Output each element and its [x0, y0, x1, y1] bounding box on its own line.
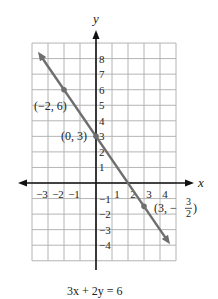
equation-caption: 3x + 2y = 6 [67, 284, 123, 298]
y-tick-label: 4 [99, 115, 105, 127]
y-tick-label: 1 [99, 161, 105, 173]
y-tick-label: 5 [99, 99, 105, 111]
plot-point [61, 87, 67, 93]
y-axis-up-arrow-icon [93, 30, 100, 39]
point-label: (−2, 6) [34, 99, 67, 113]
svg-text:3: 3 [186, 196, 191, 207]
x-axis-left-arrow-icon [18, 180, 27, 187]
x-tick-label: 4 [162, 188, 168, 200]
y-tick-label: 6 [99, 84, 105, 96]
x-axis-label: x [197, 175, 204, 190]
point-label: (0, 3) [61, 129, 87, 143]
plot-point [141, 204, 147, 210]
y-tick-label: −2 [99, 208, 111, 220]
y-tick-label: 7 [99, 68, 105, 80]
x-tick-label: 1 [114, 188, 120, 200]
x-tick-label: −1 [68, 188, 80, 200]
plot-point [93, 134, 99, 140]
svg-text:): ) [193, 201, 197, 215]
svg-text:2: 2 [186, 208, 191, 219]
x-tick-label: 3 [146, 188, 152, 200]
svg-text:(3, −: (3, − [154, 201, 177, 215]
y-tick-label: −3 [99, 224, 111, 236]
x-axis-right-arrow-icon [185, 180, 194, 187]
y-tick-label: 8 [99, 53, 105, 65]
x-tick-label: −3 [36, 188, 48, 200]
x-tick-label: −2 [52, 188, 64, 200]
y-tick-label: −1 [99, 193, 111, 205]
graph-figure: −3−2−1123487654321−1−2−3−4 (−2, 6)(0, 3)… [0, 0, 218, 299]
y-axis-label: y [91, 11, 99, 26]
y-tick-label: −4 [99, 239, 111, 251]
